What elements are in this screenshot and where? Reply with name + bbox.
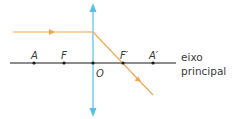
point-A-prime [151,61,154,64]
label-O: O [96,68,104,79]
lens-top-arrow-icon [90,3,97,12]
point-F [62,61,65,64]
axis-label-line2: principal [181,64,226,78]
converging-lens [90,3,97,117]
point-A [32,61,35,64]
label-F: F [61,50,67,61]
point-F-prime [121,61,124,64]
label-F-prime: F′ [120,50,129,61]
point-O [91,61,94,64]
axis-label-line1: eixo [181,50,203,64]
lens-bottom-arrow-icon [90,108,97,117]
label-A: A [30,50,38,61]
incident-ray [13,29,93,35]
ray-direction-arrow-icon [49,29,55,35]
label-A-prime: A′ [148,50,159,61]
